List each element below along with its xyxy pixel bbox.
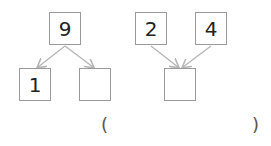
arrow-left-to-bottom: [151, 46, 178, 67]
combine-right-box: 4: [195, 12, 227, 45]
split-top-box: 9: [49, 12, 81, 45]
split-left-box: 1: [19, 68, 51, 101]
close-paren: ): [252, 114, 259, 135]
combine-left-box: 2: [135, 12, 167, 45]
split-right-answer-box[interactable]: [79, 68, 111, 101]
open-paren: (: [101, 114, 108, 135]
combine-bottom-answer-box[interactable]: [164, 68, 196, 101]
answer-blank[interactable]: [112, 114, 250, 136]
arrow-top-to-right: [65, 46, 93, 67]
arrow-right-to-bottom: [183, 46, 211, 67]
arrow-top-to-left: [38, 46, 65, 67]
